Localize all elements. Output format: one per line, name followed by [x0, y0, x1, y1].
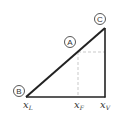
- point-b-label: B: [16, 87, 21, 96]
- point-c-marker: C: [95, 14, 106, 25]
- point-b-marker: B: [14, 86, 25, 97]
- point-a-label: A: [67, 38, 73, 47]
- diagram-svg: B A C xL xF xV: [0, 0, 113, 114]
- point-c-label: C: [97, 15, 103, 24]
- x-v-label: xV: [100, 99, 111, 111]
- point-a-marker: A: [65, 37, 76, 48]
- x-f-label: xF: [74, 99, 85, 111]
- x-l-label: xL: [23, 99, 33, 111]
- triangle-diagram: B A C xL xF xV: [0, 0, 113, 114]
